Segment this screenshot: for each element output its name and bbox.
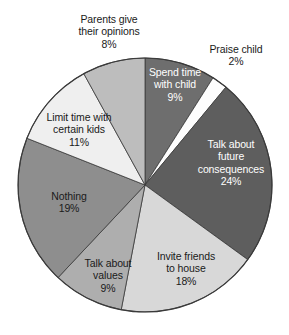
pie-chart-canvas	[0, 0, 289, 335]
pie-chart: Parents give their opinions 8% Praise ch…	[0, 0, 289, 335]
pie-slice-group	[18, 58, 272, 312]
